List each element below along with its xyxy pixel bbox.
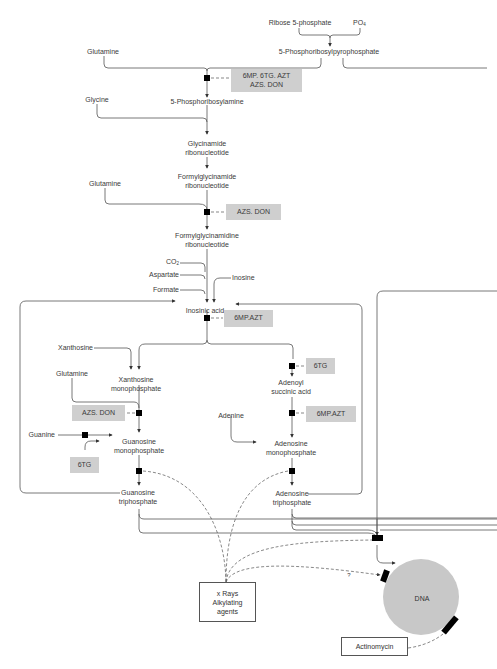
agent-line-1: x Rays (217, 589, 238, 598)
fgar-line-2: ribonucleotide (178, 182, 236, 191)
phosphate-subscript: 4 (363, 22, 366, 27)
node-prpp: 5-Phosphoribosylpyrophosphate (279, 48, 379, 57)
node-inosine: Inosine (232, 274, 255, 283)
node-guanine: Guanine (29, 431, 55, 440)
gmp-line-2: monophosphate (114, 447, 164, 456)
node-guanosine-monophosphate: Guanosine monophosphate (114, 438, 164, 455)
inhibitor-box-prpp-amidotransferase: 6MP. 6TG. AZT AZS. DON (231, 69, 302, 92)
xmp-line-1: Xanthosine (111, 376, 161, 385)
atp-line-2: triphosphate (273, 499, 312, 508)
inhibitor-box-fgam-synthetase: AZS. DON (226, 204, 281, 220)
node-xanthosine-monophosphate: Xanthosine monophosphate (111, 376, 161, 393)
gtp-line-1: Guanosine (119, 489, 158, 498)
gar-line-1: Glycinamide (185, 140, 229, 149)
node-co2: CO2 (166, 258, 179, 269)
inhibitor-box-imp-step: 6MP.AZT (224, 310, 273, 327)
inhibitor-line-2: AZS. DON (250, 81, 283, 90)
node-aspartate: Aspartate (149, 271, 179, 280)
pathway-diagram-lines (0, 0, 497, 669)
node-5-phosphoribosylamine: 5-Phosphoribosylamine (170, 98, 243, 107)
node-adenosine-monophosphate: Adenosine monophosphate (266, 440, 316, 457)
node-inosinic-acid: Inosinic acid (186, 307, 225, 316)
fgar-line-1: Formylglycinamide (178, 173, 236, 182)
inhibitor-box-gmp-step: AZS. DON (72, 405, 125, 421)
adenylosucc-line-2: succinic acid (271, 388, 311, 397)
inhibitor-box-adenylosuccinate-step: 6TG (306, 358, 335, 374)
co2-subscript: 2 (176, 261, 179, 266)
node-adenine: Adenine (218, 412, 244, 421)
amp-line-2: monophosphate (266, 449, 316, 458)
node-guanosine-triphosphate: Guanosine triphosphate (119, 489, 158, 506)
actinomycin-box: Actinomycin (341, 637, 408, 656)
fgam-line-1: Formylglycinamidine (175, 232, 239, 241)
node-glycine: Glycine (85, 96, 108, 105)
inhibitor-line-1: 6MP. 6TG. AZT (243, 72, 291, 81)
fgam-line-2: ribonucleotide (175, 241, 239, 250)
agent-line-2: Alkylating (213, 598, 243, 607)
node-phosphate: PO4 (353, 19, 366, 30)
gtp-line-2: triphosphate (119, 498, 158, 507)
node-xanthosine: Xanthosine (58, 344, 93, 353)
node-ribose-5-phosphate: Ribose 5-phosphate (269, 19, 332, 28)
node-adenosine-triphosphate: Adenosine triphosphate (273, 490, 312, 507)
co2-label: CO (166, 258, 177, 265)
node-glutamine-3: Glutamine (56, 370, 88, 379)
gmp-line-1: Guanosine (114, 438, 164, 447)
node-glutamine-1: Glutamine (87, 48, 119, 57)
xrays-alkylating-agents-box: x Rays Alkylating agents (199, 582, 256, 622)
inhibitor-box-amp-step: 6MP.AZT (306, 406, 356, 422)
node-glutamine-2: Glutamine (89, 180, 121, 189)
node-glycinamide-ribonucleotide: Glycinamide ribonucleotide (185, 140, 229, 157)
inhibitor-box-guanine-step: 6TG (70, 457, 99, 473)
node-adenylosuccinic-acid: Adenoyl succinic acid (271, 379, 311, 396)
xmp-line-2: monophosphate (111, 385, 161, 394)
agent-line-3: agents (217, 607, 238, 616)
gar-line-2: ribonucleotide (185, 149, 229, 158)
atp-line-1: Adenosine (273, 490, 312, 499)
node-formate: Formate (153, 286, 179, 295)
dna-label: DNA (415, 595, 430, 602)
node-formylglycinamidine-ribonucleotide: Formylglycinamidine ribonucleotide (175, 232, 239, 249)
amp-line-1: Adenosine (266, 440, 316, 449)
phosphate-label: PO (353, 19, 363, 26)
adenylosucc-line-1: Adenoyl (271, 379, 311, 388)
unknown-mechanism-mark: ? (347, 571, 350, 580)
node-formylglycinamide-ribonucleotide: Formylglycinamide ribonucleotide (178, 173, 236, 190)
